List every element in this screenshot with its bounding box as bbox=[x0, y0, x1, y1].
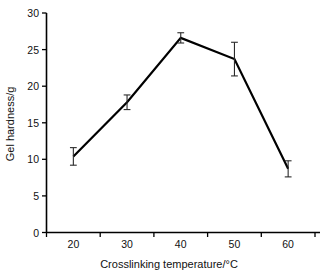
y-tick-label: 30 bbox=[27, 7, 39, 19]
data-series-line bbox=[73, 38, 288, 169]
x-tick-label: 20 bbox=[68, 238, 80, 250]
y-tick-label: 25 bbox=[27, 44, 39, 56]
x-tick-label: 50 bbox=[229, 238, 241, 250]
chart-container: Gel hardness/g Crosslinking temperature/… bbox=[0, 0, 327, 276]
y-tick-label: 15 bbox=[27, 117, 39, 129]
y-tick-label: 20 bbox=[27, 80, 39, 92]
y-tick-label: 0 bbox=[33, 227, 39, 239]
x-tick-label: 40 bbox=[175, 238, 187, 250]
x-tick-label: 60 bbox=[282, 238, 294, 250]
x-tick-label: 30 bbox=[121, 238, 133, 250]
x-axis-title: Crosslinking temperature/°C bbox=[100, 258, 238, 270]
y-tick-label: 10 bbox=[27, 153, 39, 165]
y-tick-labels: 30 25 20 15 10 5 0 bbox=[27, 7, 39, 239]
y-tick-label: 5 bbox=[33, 190, 39, 202]
error-bars-group bbox=[70, 33, 292, 177]
y-axis-title: Gel hardness/g bbox=[4, 87, 16, 162]
line-chart: Gel hardness/g Crosslinking temperature/… bbox=[0, 0, 327, 276]
x-tick-labels: 20 30 40 50 60 bbox=[68, 238, 295, 250]
